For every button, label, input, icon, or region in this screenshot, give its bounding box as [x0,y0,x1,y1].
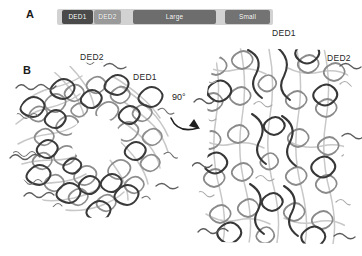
side-view-ribbon-drawing [192,44,362,248]
domain-segment-ded1: DED1 [62,10,93,24]
axial-view-label-ded1: DED1 [133,72,157,82]
domain-segment-large-label: Large [166,14,184,21]
axial-view-ribbon-drawing [8,58,184,218]
structure-axial-view [8,58,184,218]
side-view-label-ded2: DED2 [327,53,351,63]
axial-view-label-ded2: DED2 [80,52,104,62]
domain-segment-ded2: DED2 [94,10,121,24]
panel-a-letter: A [26,8,34,20]
domain-segment-small-label: Small [239,14,256,21]
figure-root: A DED1 DED2 Large Small B [0,0,362,256]
domain-segment-ded1-label: DED1 [68,14,86,21]
domain-segment-small: Small [225,10,270,24]
domain-segment-large: Large [133,10,216,24]
domain-architecture-bar: DED1 DED2 Large Small [57,9,273,25]
structure-side-view [192,44,362,248]
side-view-label-ded1: DED1 [272,28,296,38]
domain-segment-ded2-label: DED2 [98,14,116,21]
